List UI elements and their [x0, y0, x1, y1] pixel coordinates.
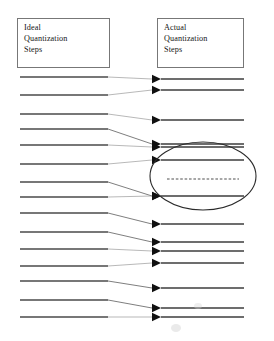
mapping-arrowhead-icon [152, 313, 161, 321]
missing-code-highlight-ellipse [150, 142, 256, 210]
missing-code-highlight-group [150, 142, 256, 210]
mapping-arrowhead-icon [152, 284, 161, 292]
mapping-connector [108, 213, 152, 224]
mapping-arrowhead-icon [152, 220, 161, 228]
mapping-connector [108, 145, 152, 147]
ideal-step-line-group [20, 77, 108, 317]
mapping-arrowhead-icon [152, 86, 161, 94]
mapping-connector [108, 160, 152, 164]
mapping-connector [108, 281, 152, 288]
mapping-connector [108, 114, 152, 120]
mapping-connector [108, 263, 152, 266]
arrowhead-group [152, 75, 161, 321]
mapping-arrowhead-icon [152, 304, 161, 312]
mapping-arrowhead-icon [152, 247, 161, 255]
mapping-connector [108, 182, 152, 196]
mapping-connector [108, 249, 152, 251]
mapping-arrowhead-icon [152, 238, 161, 246]
mapping-connector [108, 300, 152, 308]
mapping-connector [108, 77, 152, 79]
actual-step-line-group [161, 79, 244, 317]
scan-smudge-secondary-icon [194, 303, 202, 309]
mapping-connector [108, 90, 152, 95]
mapping-arrowhead-icon [152, 116, 161, 124]
quantization-diagram-canvas [0, 0, 274, 341]
quantization-steps-figure: Ideal Quantization Steps Actual Quantiza… [0, 0, 274, 341]
mapping-connector [108, 196, 152, 197]
mapping-arrowhead-icon [152, 75, 161, 83]
mapping-connector [108, 129, 152, 144]
mapping-connector-group [108, 77, 152, 317]
mapping-connector [108, 232, 152, 242]
scan-smudge-icon [171, 324, 181, 332]
mapping-arrowhead-icon [152, 259, 161, 267]
